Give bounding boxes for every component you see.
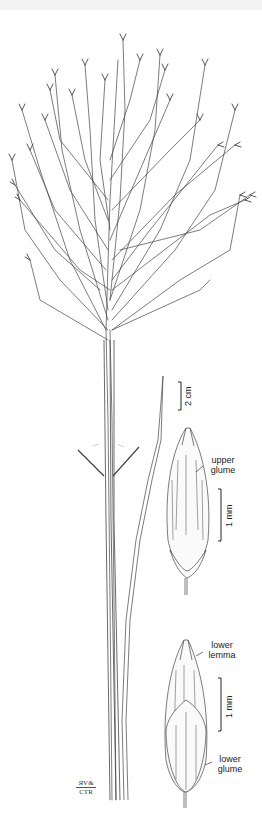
leaf-blade <box>122 376 163 800</box>
scale-bar-2cm <box>178 382 181 410</box>
scale-label-1mm-upper: 1 mm <box>224 505 234 528</box>
scale-label-2cm: 2 cm <box>183 386 193 406</box>
artist-signature: ЯV& CTR <box>76 779 96 796</box>
scale-bar-1mm-upper <box>218 489 221 541</box>
upper-spikelet <box>167 428 209 595</box>
label-lower-glume: lower glume <box>210 754 250 774</box>
label-lower-lemma: lower lemma <box>202 640 242 660</box>
panicle <box>9 34 256 800</box>
scale-bar-1mm-lower <box>218 678 221 731</box>
lower-spikelet <box>165 640 207 808</box>
label-upper-glume: upper glume <box>203 455 243 475</box>
plant-illustration <box>0 0 262 820</box>
scale-label-1mm-lower: 1 mm <box>224 696 234 719</box>
